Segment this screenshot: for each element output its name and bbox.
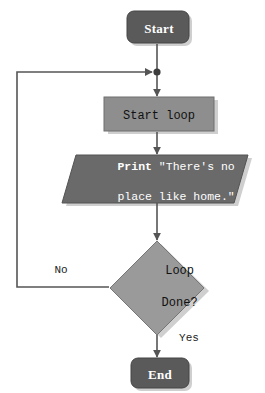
flowchart-canvas: [0, 0, 265, 393]
junction-dot: [153, 68, 160, 75]
start-loop-node[interactable]: [104, 97, 214, 131]
end-node[interactable]: [131, 358, 189, 388]
flowchart-diagram: Start Start loop Print "There's no place…: [0, 0, 265, 393]
start-node[interactable]: [127, 11, 189, 43]
loop-done-decision-node[interactable]: [110, 241, 204, 335]
print-node[interactable]: [62, 155, 248, 203]
